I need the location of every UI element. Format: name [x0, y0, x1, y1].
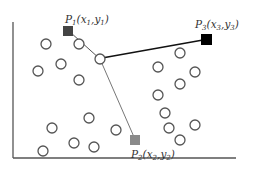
point-p2-label: P2(x2,y2) [130, 148, 175, 162]
point-p2-marker [130, 135, 140, 145]
data-point-circle [33, 66, 43, 76]
data-point-circle [175, 79, 185, 89]
point-p1-marker [63, 26, 73, 36]
hub-circle [95, 54, 105, 64]
data-point-circle [164, 123, 174, 133]
data-point-circle [38, 146, 48, 156]
data-point-circle [153, 62, 163, 72]
data-point-circle [160, 108, 170, 118]
data-point-circle [190, 67, 200, 77]
data-point-circle [74, 39, 84, 49]
point-p3-marker [201, 34, 212, 45]
data-point-circle [47, 123, 57, 133]
data-point-circle [84, 113, 94, 123]
edge-hub-p3 [102, 40, 203, 58]
data-point-circle [190, 120, 200, 130]
diagram-canvas: P1(x1,y1) P3(x3,y3) P2(x2,y2) [0, 0, 258, 181]
data-point-circle [69, 138, 79, 148]
data-point-circle [56, 59, 66, 69]
data-point-circle [111, 125, 121, 135]
data-point-circle [89, 142, 99, 152]
point-p1-label: P1(x1,y1) [64, 13, 109, 27]
point-p3-label: P3(x3,y3) [194, 18, 239, 32]
data-point-circle [153, 90, 163, 100]
data-point-circle [74, 75, 84, 85]
data-point-circle [41, 39, 51, 49]
data-point-circle [175, 48, 185, 58]
data-point-circle [175, 135, 185, 145]
